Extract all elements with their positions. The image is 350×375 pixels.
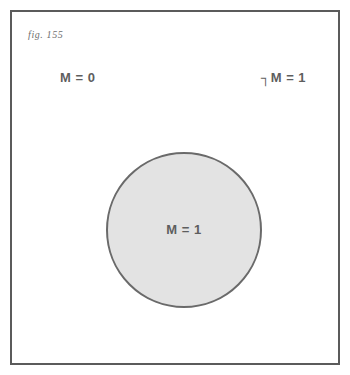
universe-frame: fig. 155 M = 0 ┐M = 1 M = 1: [10, 10, 340, 365]
label-not-m-equals-1: ┐M = 1: [261, 70, 306, 85]
label-m-equals-1: M = 1: [108, 222, 260, 237]
label-m-equals-0: M = 0: [60, 70, 95, 85]
model-circle: M = 1: [106, 152, 262, 308]
figure-root: fig. 155 M = 0 ┐M = 1 M = 1: [0, 0, 350, 375]
figure-caption: fig. 155: [28, 29, 63, 40]
